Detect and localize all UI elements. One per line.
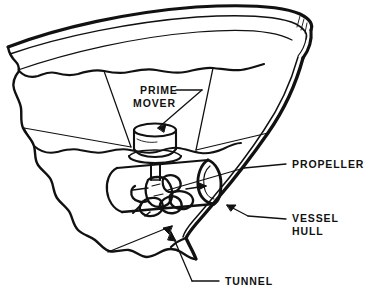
label-tunnel: TUNNEL — [225, 275, 273, 287]
torn-edge-upper — [19, 64, 264, 77]
label-vessel-hull-line2: HULL — [292, 225, 324, 237]
label-prime-mover-line2: MOVER — [133, 97, 176, 109]
leader-vessel-hull — [227, 205, 286, 219]
bow-thruster-diagram: PRIME MOVER PROPELLER VESSEL HULL TUNNEL — [0, 0, 372, 296]
interior-structure-lines — [24, 68, 268, 150]
label-propeller: PROPELLER — [292, 158, 364, 170]
prime-mover — [129, 124, 181, 164]
diagram-canvas: PRIME MOVER PROPELLER VESSEL HULL TUNNEL — [0, 0, 372, 296]
label-vessel-hull-line1: VESSEL — [292, 212, 339, 224]
leader-tunnel — [108, 226, 219, 281]
hull-right-shell — [171, 57, 303, 259]
label-prime-mover-line1: PRIME — [140, 84, 178, 96]
deck-edge-line — [18, 30, 292, 70]
